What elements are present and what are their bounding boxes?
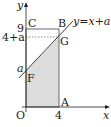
y-tick-4-plus-a: 4+a xyxy=(2,31,25,44)
point-b-label: B xyxy=(58,17,66,30)
y-axis-arrow-icon xyxy=(24,2,28,7)
x-axis-label: x xyxy=(103,109,110,122)
point-a-label: A xyxy=(60,96,70,109)
y-axis-label: y xyxy=(16,0,24,12)
point-g-label: G xyxy=(60,35,69,48)
coordinate-diagram: y C B y=x+a 9 4+a G a F A O 4 x xyxy=(0,0,111,127)
origin-label: O xyxy=(16,109,25,122)
x-tick-4: 4 xyxy=(55,109,62,122)
y-tick-a: a xyxy=(17,62,24,75)
point-f-label: F xyxy=(27,72,35,85)
line-equation-label: y=x+a xyxy=(72,15,110,28)
point-c-label: C xyxy=(28,17,36,30)
